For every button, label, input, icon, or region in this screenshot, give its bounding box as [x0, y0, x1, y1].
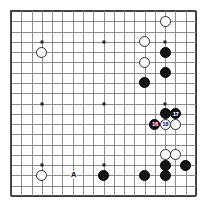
go-board-diagram: 171618 A: [0, 0, 210, 206]
grid-line-horizontal: [11, 196, 196, 197]
grid-line-vertical: [196, 11, 197, 196]
board-frame: [10, 10, 196, 196]
